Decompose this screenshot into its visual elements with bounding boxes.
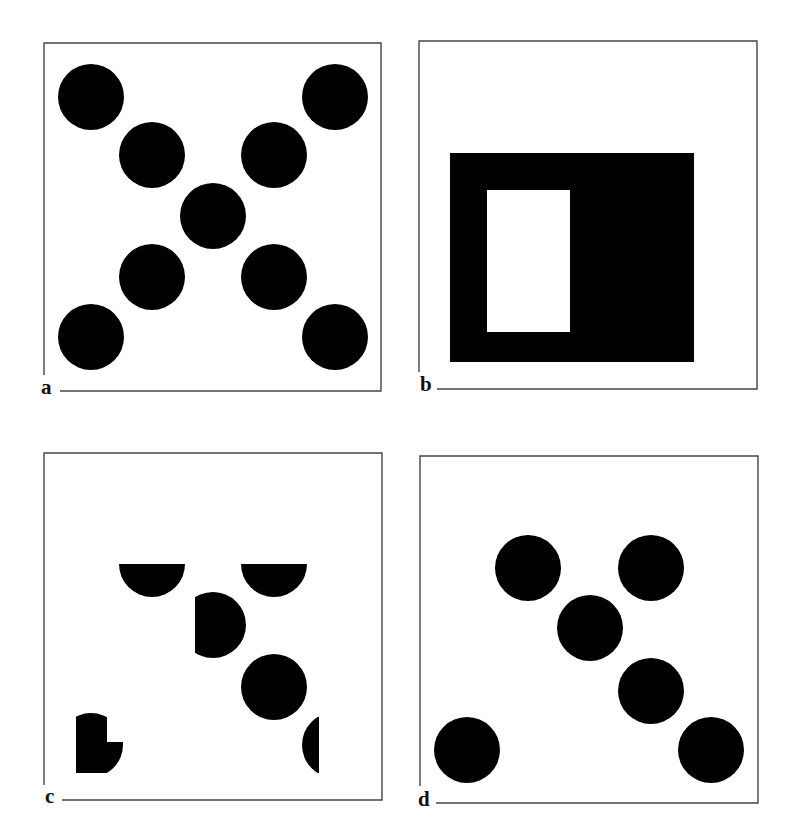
panel-label-d: d [418,789,430,810]
black-disk [618,658,684,724]
disk-fragment [241,531,307,597]
disk-fragment [302,712,368,778]
panel-label-c: c [45,786,54,807]
panel-label-a: a [41,377,52,398]
black-disk [434,717,500,783]
black-disk [119,244,185,310]
black-disk [180,183,246,249]
disk-fragment [180,592,246,658]
black-disk [618,535,684,601]
black-disk [557,595,623,661]
panel-b [419,41,757,389]
panel-label-b: b [420,374,432,395]
black-disk [302,64,368,130]
black-disk [678,717,744,783]
black-disk [58,304,124,370]
black-rectangle [450,153,694,362]
panel-a [44,43,381,391]
white-window [487,190,570,332]
black-disk [241,122,307,188]
black-disk [58,64,124,130]
black-disk [495,535,561,601]
figure-canvas [0,0,788,834]
black-disk [302,304,368,370]
black-disk [241,654,307,720]
black-disk [241,244,307,310]
disk-fragment [119,531,185,597]
panel-d [420,456,758,803]
black-disk [119,122,185,188]
panel-c [44,453,382,800]
